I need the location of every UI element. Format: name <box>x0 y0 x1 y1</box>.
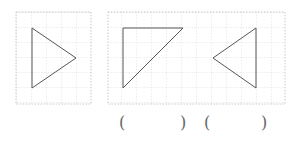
answer-blank-2-close: ) <box>261 115 267 131</box>
answer-blank-1-close: ) <box>180 115 186 131</box>
answer-blank-2-open: ( <box>204 115 210 131</box>
right-grid-panel <box>108 12 285 104</box>
figure-canvas <box>0 0 298 141</box>
answer-blank-1-open: ( <box>119 115 125 131</box>
left-grid-panel <box>16 12 91 104</box>
